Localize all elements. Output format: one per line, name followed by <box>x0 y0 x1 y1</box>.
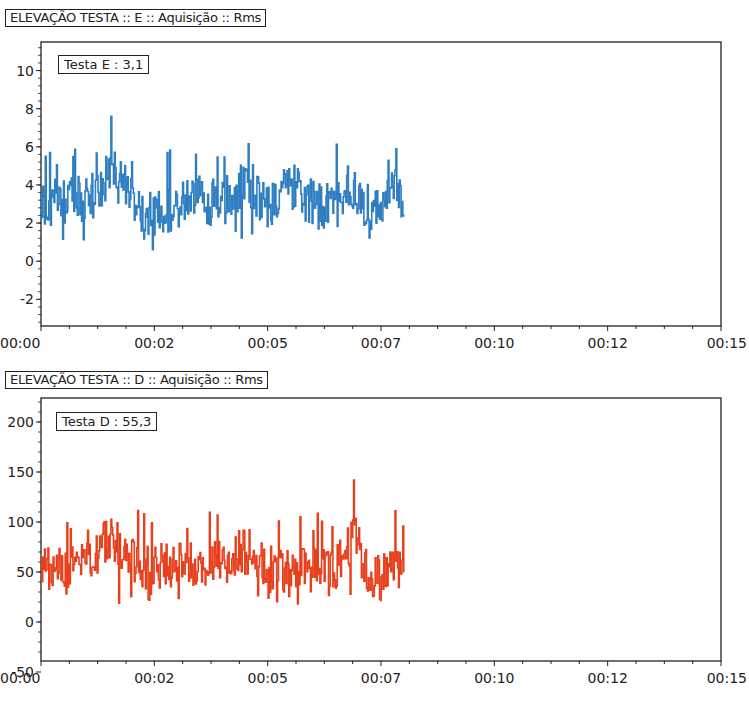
y-tick-label: 100 <box>7 514 34 530</box>
x-tick-label: 00:10 <box>474 670 514 686</box>
y-tick-label: 50 <box>16 564 34 580</box>
chart-plot-area: 00:0000:0200:0500:0700:1000:1200:15-5005… <box>0 0 749 714</box>
y-tick-label: 150 <box>7 464 34 480</box>
x-tick-label: 00:12 <box>587 670 627 686</box>
x-tick-label: 00:15 <box>707 670 747 686</box>
data-series-line <box>41 480 404 604</box>
y-tick-label: -50 <box>11 664 34 680</box>
x-tick-label: 00:02 <box>134 670 174 686</box>
chart-panel-d: ELEVAÇÃO TESTA :: D :: Aquisição :: Rms … <box>0 0 749 714</box>
x-tick-label: 00:07 <box>361 670 401 686</box>
y-tick-label: 200 <box>7 414 34 430</box>
y-tick-label: 0 <box>25 614 34 630</box>
legend-label: Testa D : 55,3 <box>56 412 157 431</box>
x-tick-label: 00:05 <box>247 670 287 686</box>
